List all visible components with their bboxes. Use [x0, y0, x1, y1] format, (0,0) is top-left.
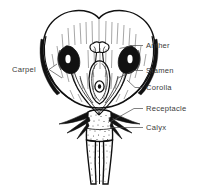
label-corolla: Corolla [146, 83, 172, 92]
label-carpel: Carpel [12, 65, 36, 74]
label-anther: Anther [146, 41, 170, 50]
flower-diagram: Anther Stamen Corolla Receptacle Calyx C… [0, 0, 199, 190]
flower-cross-section-illustration: Anther Stamen Corolla Receptacle Calyx C… [0, 0, 199, 190]
label-calyx: Calyx [146, 123, 166, 132]
label-stamen: Stamen [146, 66, 174, 75]
label-receptacle: Receptacle [146, 104, 187, 113]
